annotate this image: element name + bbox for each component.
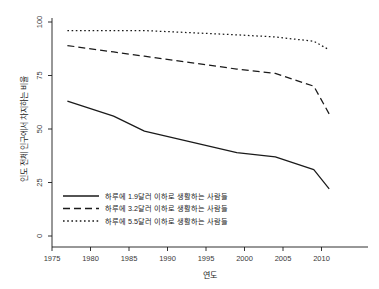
y-tick-label-75: 75 <box>35 71 44 79</box>
x-tick-label-2010: 2010 <box>313 254 330 263</box>
chart-legend: 하루에 1.9달러 이하로 생활하는 사람들 하루에 3.2달러 이하로 생활하… <box>63 192 228 226</box>
x-tick-label-1995: 1995 <box>198 254 215 263</box>
y-tick-label-25: 25 <box>35 178 44 186</box>
y-tick-label-50: 50 <box>35 125 44 133</box>
y-tick-label-100: 100 <box>35 16 44 29</box>
x-tick-label-2000: 2000 <box>236 254 253 263</box>
legend-label-3-2-dollar: 하루에 3.2달러 이하로 생활하는 사람들 <box>105 204 228 213</box>
y-tick-label-0: 0 <box>35 234 44 238</box>
x-tick-label-1985: 1985 <box>121 254 138 263</box>
legend-label-1-9-dollar: 하루에 1.9달러 이하로 생활하는 사람들 <box>105 192 228 201</box>
x-tick-label-1975: 1975 <box>44 254 61 263</box>
line-chart-svg: 인도 전체 인구에서 차지하는 비율 100 75 50 25 0 <box>0 0 379 289</box>
chart-figure: 인도 전체 인구에서 차지하는 비율 100 75 50 25 0 <box>0 0 379 289</box>
x-tick-marks <box>52 247 322 251</box>
x-tick-label-1990: 1990 <box>159 254 176 263</box>
x-tick-label-1980: 1980 <box>82 254 99 263</box>
series-line-1-9-dollar <box>67 101 329 189</box>
series-line-3-2-dollar <box>67 46 329 114</box>
legend-label-5-5-dollar: 하루에 5.5달러 이하로 생활하는 사람들 <box>105 217 228 226</box>
y-axis-title: 인도 전체 인구에서 차지하는 비율 <box>19 76 29 183</box>
x-tick-labels: 1975 1980 1985 1990 1995 2000 2005 2010 <box>44 254 330 263</box>
x-axis-title: 연도 <box>203 271 217 280</box>
cropped-header-text <box>8 0 208 5</box>
y-tick-labels: 100 75 50 25 0 <box>35 16 44 238</box>
x-tick-label-2005: 2005 <box>275 254 292 263</box>
series-line-5-5-dollar <box>67 31 329 50</box>
y-tick-marks <box>48 22 52 236</box>
